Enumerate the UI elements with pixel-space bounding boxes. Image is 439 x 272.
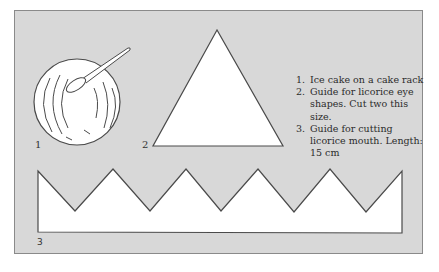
iced-cake-illustration — [34, 59, 120, 145]
eye-shape-triangle — [153, 30, 283, 146]
legend-item-3: Guide for cutting licorice mouth. Length… — [308, 123, 424, 160]
legend-item-2: Guide for licorice eye shapes. Cut two t… — [308, 86, 424, 123]
figure-legend: Ice cake on a cake rack Guide for licori… — [294, 74, 424, 159]
figure-3-label: 3 — [37, 238, 43, 247]
mouth-zigzag-guide — [38, 169, 402, 233]
figure-1-label: 1 — [35, 140, 41, 150]
legend-item-1: Ice cake on a cake rack — [308, 74, 424, 86]
figure-2-label: 2 — [142, 140, 148, 150]
